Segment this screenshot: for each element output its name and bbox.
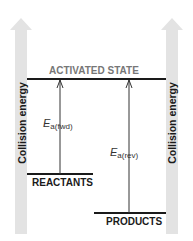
- ea-reverse-label: Ea(rev): [110, 146, 138, 160]
- reactants-label: REACTANTS: [32, 177, 93, 188]
- ea-reverse-subscript: a(rev): [117, 151, 138, 160]
- activated-state-line: [27, 78, 166, 80]
- collision-energy-label-left: Collision energy: [16, 79, 28, 167]
- ea-forward-subscript: a(fwd): [50, 122, 72, 131]
- collision-energy-label-right: Collision energy: [166, 79, 178, 167]
- products-label: PRODUCTS: [106, 216, 162, 227]
- activated-state-label: ACTIVATED STATE: [49, 65, 139, 76]
- ea-forward-label: Ea(fwd): [43, 117, 73, 131]
